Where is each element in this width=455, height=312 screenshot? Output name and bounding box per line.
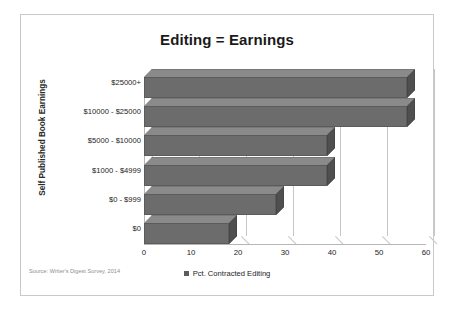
bar[interactable] xyxy=(144,215,229,236)
x-axis-tick-label: 20 xyxy=(226,248,250,257)
bar-top-face xyxy=(144,215,237,223)
bar-top-face xyxy=(144,98,415,106)
bar-front-face xyxy=(144,77,407,98)
y-axis-tick-label: $5000 - $10000 xyxy=(55,137,141,145)
x-axis-tick-label: 0 xyxy=(132,248,156,257)
y-axis-tick-label: $10000 - $25000 xyxy=(55,108,141,116)
y-axis-tick-label: $25000+ xyxy=(55,79,141,87)
bar-front-face xyxy=(144,223,229,244)
bar-top-face xyxy=(144,157,335,165)
bar-front-face xyxy=(144,165,327,186)
x-axis-tick-label: 10 xyxy=(179,248,203,257)
y-axis-tick-labels: $0$0 - $999$1000 - $4999$5000 - $10000$1… xyxy=(55,69,141,244)
chart-card: Editing = Earnings Self Published Book E… xyxy=(20,14,434,296)
x-axis-tick-label: 40 xyxy=(320,248,344,257)
bar[interactable] xyxy=(144,157,327,178)
legend-label: Pct. Contracted Editing xyxy=(193,269,271,278)
x-axis-tick-label: 50 xyxy=(367,248,391,257)
x-axis-tick-labels: 0102030405060 xyxy=(144,248,444,262)
bar[interactable] xyxy=(144,69,407,90)
bar-front-face xyxy=(144,135,327,156)
y-axis-tick-label: $1000 - $4999 xyxy=(55,167,141,175)
chart-legend: Pct. Contracted Editing xyxy=(21,269,433,278)
x-axis-tick-label: 60 xyxy=(414,248,438,257)
plot-front-floor xyxy=(144,244,426,245)
y-axis-tick-label: $0 xyxy=(55,225,141,233)
chart-title: Editing = Earnings xyxy=(21,31,433,48)
x-axis-tick-label: 30 xyxy=(273,248,297,257)
y-axis-tick-label: $0 - $999 xyxy=(55,196,141,204)
legend-square-icon xyxy=(184,271,189,276)
bar[interactable] xyxy=(144,127,327,148)
bar-top-face xyxy=(144,127,335,135)
gridline-foot xyxy=(429,236,438,245)
bar-top-face xyxy=(144,69,415,77)
plot-area xyxy=(144,69,434,244)
bar[interactable] xyxy=(144,186,276,207)
bar-front-face xyxy=(144,106,407,127)
bar[interactable] xyxy=(144,98,407,119)
gridline xyxy=(434,69,435,236)
y-axis-title: Self Published Book Earnings xyxy=(38,73,47,203)
bar-top-face xyxy=(144,186,284,194)
bar-front-face xyxy=(144,194,276,215)
